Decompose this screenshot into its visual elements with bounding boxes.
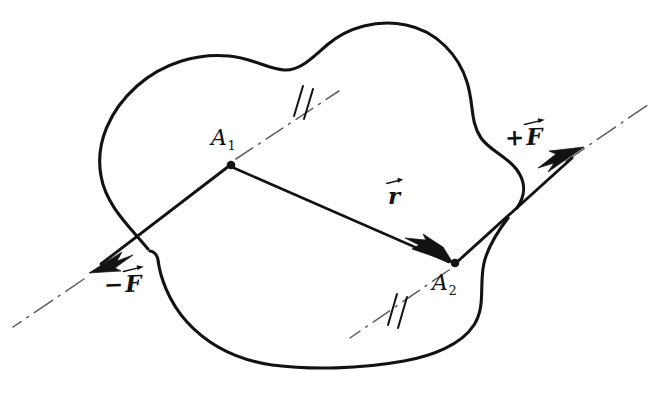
force-positive-shaft	[457, 158, 572, 262]
label-vector-r-symbol-stack: r	[388, 184, 400, 207]
figure-svg	[0, 0, 659, 398]
label-force-negative-symbol: F	[125, 269, 142, 297]
axis-lines-group	[13, 91, 649, 338]
label-a2-symbol: A	[432, 270, 448, 295]
parallel-hatch-lower	[388, 294, 407, 328]
label-force-negative-symbol-stack: F	[125, 271, 142, 295]
label-vector-r-symbol: r	[388, 182, 400, 209]
axis-line-lower-left	[13, 279, 84, 327]
label-point-a2: A2	[432, 272, 457, 297]
force-positive-group	[457, 147, 584, 262]
label-force-positive-symbol-stack: F	[526, 124, 543, 148]
rigid-body-outline	[100, 23, 524, 368]
label-force-negative: −F	[104, 271, 142, 295]
diagram-canvas: A1 A2 +F −F r	[0, 0, 659, 398]
vector-r-arrowhead	[405, 234, 453, 263]
label-force-positive: +F	[505, 124, 543, 148]
label-a1-subscript: 1	[227, 138, 235, 153]
force-negative-group	[89, 166, 229, 273]
label-point-a1: A1	[211, 127, 236, 152]
label-force-positive-sign: +	[505, 123, 525, 151]
label-vector-r: r	[388, 184, 400, 207]
vector-r-group	[234, 168, 453, 263]
label-force-negative-sign: −	[104, 270, 124, 298]
axis-line-upper-right	[566, 104, 649, 161]
axis-line-through-a1	[236, 91, 339, 159]
label-a2-subscript: 2	[448, 283, 456, 298]
point-marker-a2	[451, 259, 460, 268]
label-force-positive-symbol: F	[526, 122, 543, 150]
point-marker-a1	[227, 161, 236, 170]
label-a1-symbol: A	[211, 125, 227, 150]
